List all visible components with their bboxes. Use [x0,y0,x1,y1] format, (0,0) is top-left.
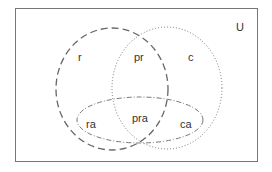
region-ra-label: ra [86,118,97,130]
venn-diagram: U r pr c ra pra ca [0,0,272,172]
region-pr-label: pr [134,51,144,63]
region-ca-label: ca [180,118,193,130]
region-r-label: r [78,51,82,63]
region-c-label: c [188,51,194,63]
region-pra-label: pra [132,112,149,124]
universe-label: U [236,21,244,33]
